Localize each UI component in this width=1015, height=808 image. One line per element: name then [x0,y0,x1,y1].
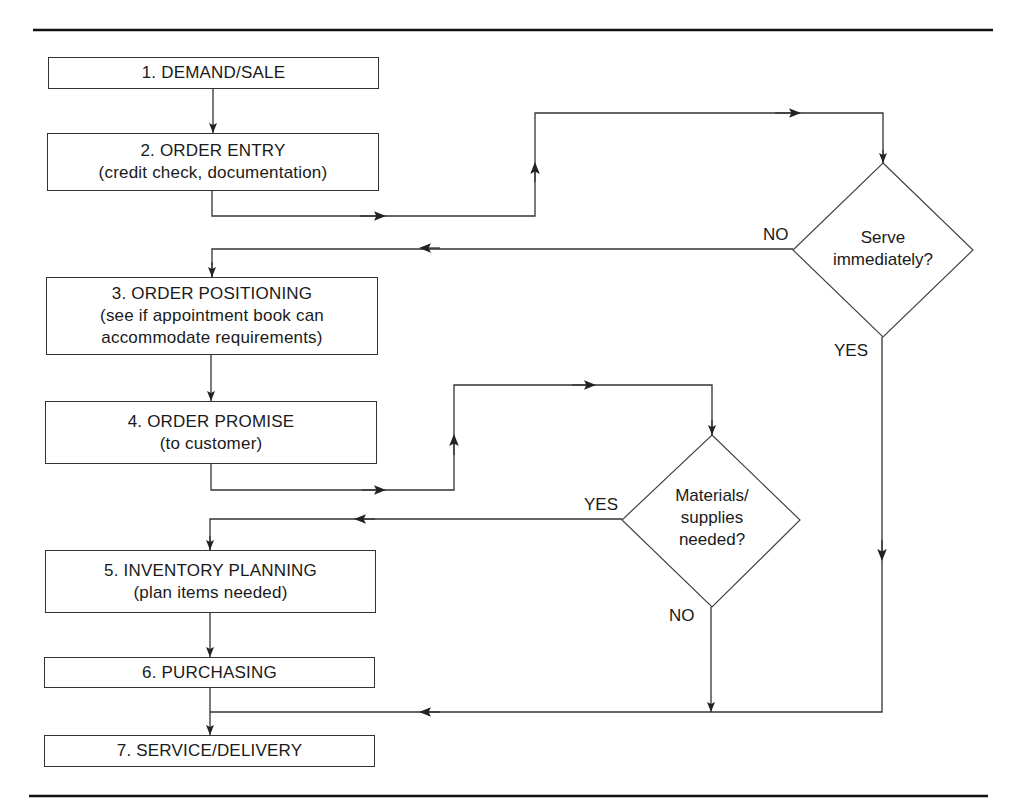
step-title: 6. PURCHASING [142,662,277,684]
decision-serve-text: Serve immediately? [803,227,963,271]
step-title: 2. ORDER ENTRY [140,140,285,162]
decision-materials-text: Materials/ supplies needed? [642,485,782,551]
step-purchasing: 6. PURCHASING [44,657,375,688]
step-order-positioning: 3. ORDER POSITIONING (see if appointment… [46,277,378,355]
step-title: 4. ORDER PROMISE [128,411,295,433]
step-subtitle: (plan items needed) [133,582,287,604]
step-order-promise: 4. ORDER PROMISE (to customer) [45,401,377,464]
step-subtitle-line1: (see if appointment book can [100,305,324,327]
step-demand-sale: 1. DEMAND/SALE [48,57,379,89]
step-title: 3. ORDER POSITIONING [112,283,312,305]
edge-serve-no-3 [212,249,793,277]
decision-serve-line1: Serve [803,227,963,249]
decision-materials-line1: Materials/ [642,485,782,507]
step-service-delivery: 7. SERVICE/DELIVERY [44,735,375,767]
branch-label-serve-no: NO [763,225,789,245]
step-title: 5. INVENTORY PLANNING [104,560,317,582]
decision-materials-line3: needed? [642,529,782,551]
decision-serve-line2: immediately? [803,249,963,271]
step-order-entry: 2. ORDER ENTRY (credit check, documentat… [47,133,379,191]
step-title: 1. DEMAND/SALE [142,62,286,84]
edge-materials-yes-5 [210,519,622,550]
step-subtitle-line2: accommodate requirements) [101,327,322,349]
step-inventory-planning: 5. INVENTORY PLANNING (plan items needed… [45,550,376,613]
branch-label-materials-no: NO [669,606,695,626]
step-subtitle: (to customer) [160,433,263,455]
step-title: 7. SERVICE/DELIVERY [117,740,303,762]
branch-label-serve-yes: YES [834,341,868,361]
branch-label-materials-yes: YES [584,495,618,515]
decision-materials-line2: supplies [642,507,782,529]
step-subtitle: (credit check, documentation) [99,162,328,184]
